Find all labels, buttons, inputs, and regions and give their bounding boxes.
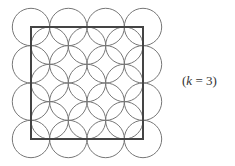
k-value-label: (k = 3) — [182, 73, 217, 89]
inner-grid-circle — [31, 27, 68, 64]
covering-circles — [12, 8, 161, 157]
inner-grid-circle — [106, 64, 143, 101]
inner-grid-circle — [31, 102, 68, 139]
inner-grid-circle — [68, 64, 105, 101]
outer-grid-circle — [87, 46, 124, 83]
unit-square — [31, 27, 143, 139]
inner-grid-circle — [68, 102, 105, 139]
inner-grid-circle — [106, 102, 143, 139]
inner-grid-circle — [106, 27, 143, 64]
label-value: = 3) — [192, 73, 217, 88]
outer-grid-circle — [87, 83, 124, 120]
outer-grid-circle — [50, 83, 87, 120]
inner-grid-circle — [68, 27, 105, 64]
outer-grid-circle — [50, 46, 87, 83]
inner-grid-circle — [31, 64, 68, 101]
